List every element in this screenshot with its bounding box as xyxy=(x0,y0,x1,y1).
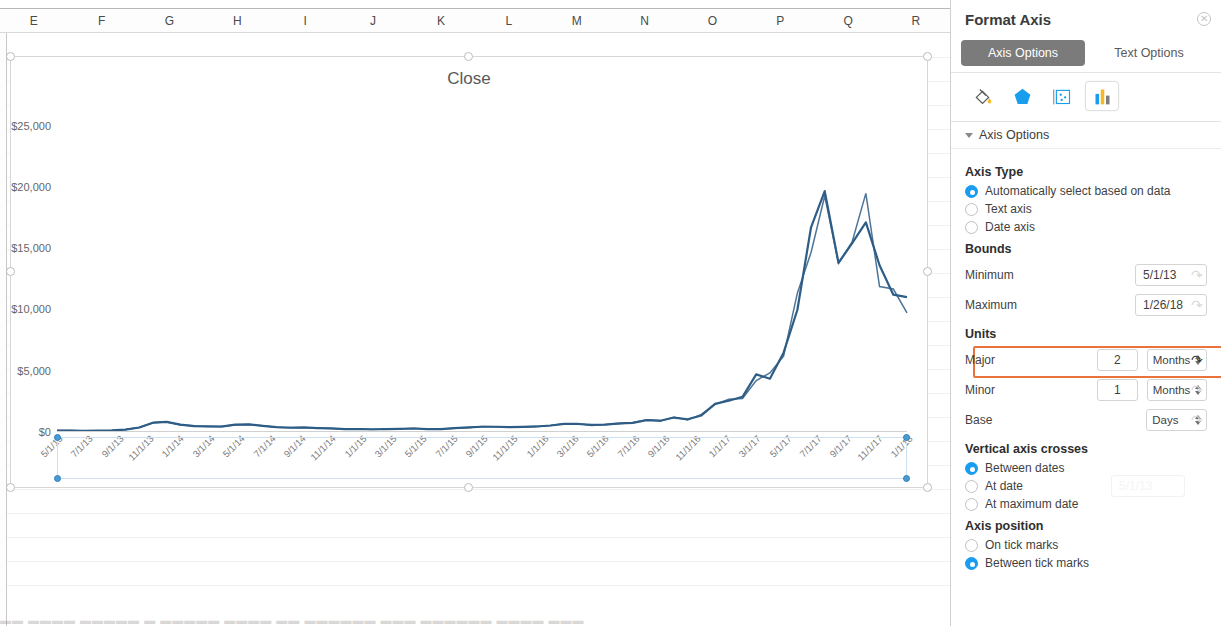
reset-major-icon[interactable]: ↷ xyxy=(1187,352,1207,368)
radio-button-icon xyxy=(965,498,978,511)
column-header-l[interactable]: L xyxy=(475,14,543,28)
category-axis-line xyxy=(57,431,907,432)
radio-label: Between tick marks xyxy=(985,556,1089,570)
axis-options-chart-icon[interactable] xyxy=(1085,81,1119,111)
column-header-n[interactable]: N xyxy=(611,14,679,28)
column-header-m[interactable]: M xyxy=(543,14,611,28)
radio-label: On tick marks xyxy=(985,538,1058,552)
axis-type-heading: Axis Type xyxy=(965,165,1207,179)
chart-handle-ml[interactable] xyxy=(6,267,15,276)
column-header-e[interactable]: E xyxy=(0,14,68,28)
column-header-row: EFGHIJKLMNOPQR xyxy=(0,8,950,33)
radio-between-tick-marks[interactable]: Between tick marks xyxy=(965,556,1207,570)
column-header-j[interactable]: J xyxy=(339,14,407,28)
radio-label: Automatically select based on data xyxy=(985,184,1170,198)
chart-handle-bc[interactable] xyxy=(464,483,473,492)
grid-line xyxy=(7,537,950,538)
radio-between-dates[interactable]: Between dates xyxy=(965,461,1207,475)
pane-title: Format Axis xyxy=(965,11,1051,28)
radio-auto-select[interactable]: Automatically select based on data xyxy=(965,184,1207,198)
radio-label: Date axis xyxy=(985,220,1035,234)
column-header-o[interactable]: O xyxy=(679,14,747,28)
tab-axis-options[interactable]: Axis Options xyxy=(961,40,1085,66)
axis-handle-br[interactable] xyxy=(903,475,910,482)
vertical-axis-crosses-heading: Vertical axis crosses xyxy=(965,442,1207,456)
major-label: Major xyxy=(965,353,1057,367)
chart-handle-bl[interactable] xyxy=(6,483,15,492)
chart-handle-tc[interactable] xyxy=(464,52,473,61)
units-base-row: Base Days ↷ xyxy=(965,406,1207,434)
units-heading: Units xyxy=(965,327,1207,341)
column-header-i[interactable]: I xyxy=(271,14,339,28)
chart-handle-tr[interactable] xyxy=(923,52,932,61)
column-header-g[interactable]: G xyxy=(136,14,204,28)
radio-at-date[interactable]: At date 5/1/13 xyxy=(965,479,1207,493)
reset-maximum-icon[interactable]: ↷ xyxy=(1187,297,1207,313)
y-axis-tick-label: $5,000 xyxy=(17,365,51,377)
chart-handle-tl[interactable] xyxy=(6,52,15,61)
column-header-p[interactable]: P xyxy=(746,14,814,28)
reset-minor-icon[interactable]: ↷ xyxy=(1187,382,1207,398)
y-axis-tick-label: $20,000 xyxy=(11,181,51,193)
y-axis-tick-label: $25,000 xyxy=(11,120,51,132)
bounds-minimum-row: Minimum 5/1/13 ↷ xyxy=(965,261,1207,289)
axis-handle-tl[interactable] xyxy=(54,434,61,441)
units-major-row: Major 2 Months ↷ xyxy=(965,346,1207,374)
radio-on-tick-marks[interactable]: On tick marks xyxy=(965,538,1207,552)
base-label: Base xyxy=(965,413,1057,427)
column-header-r[interactable]: R xyxy=(882,14,950,28)
minimum-label: Minimum xyxy=(965,268,1057,282)
fill-bucket-icon[interactable] xyxy=(965,81,999,111)
close-icon[interactable]: ✕ xyxy=(1197,12,1211,26)
radio-label: Between dates xyxy=(985,461,1064,475)
major-unit-value: Months xyxy=(1153,354,1191,366)
axis-handle-bl[interactable] xyxy=(54,475,61,482)
pane-body: Axis Type Automatically select based on … xyxy=(951,149,1221,570)
grid-line xyxy=(7,585,950,586)
size-properties-icon[interactable] xyxy=(1045,81,1079,111)
radio-button-icon xyxy=(965,462,978,475)
radio-date-axis[interactable]: Date axis xyxy=(965,220,1207,234)
major-value-input[interactable]: 2 xyxy=(1097,349,1138,371)
tab-text-options[interactable]: Text Options xyxy=(1087,40,1211,66)
column-header-h[interactable]: H xyxy=(204,14,272,28)
column-header-k[interactable]: K xyxy=(407,14,475,28)
at-date-input[interactable]: 5/1/13 xyxy=(1111,475,1185,497)
axis-position-heading: Axis position xyxy=(965,519,1207,533)
maximum-label: Maximum xyxy=(965,298,1057,312)
chevron-down-icon xyxy=(965,133,973,138)
radio-button-icon xyxy=(965,480,978,493)
chart-series-line xyxy=(57,101,907,432)
effects-pentagon-icon[interactable] xyxy=(1005,81,1039,111)
pane-header: Format Axis ✕ xyxy=(951,0,1221,38)
radio-button-icon xyxy=(965,221,978,234)
minor-value-input[interactable]: 1 xyxy=(1097,379,1138,401)
radio-label: At date xyxy=(985,479,1023,493)
chart-title: Close xyxy=(11,69,927,89)
x-axis-selection-box[interactable] xyxy=(57,437,907,479)
minor-label: Minor xyxy=(965,383,1057,397)
reset-minimum-icon[interactable]: ↷ xyxy=(1187,267,1207,283)
bounds-maximum-row: Maximum 1/26/18 ↷ xyxy=(965,291,1207,319)
grid-line xyxy=(7,513,950,514)
grid-line xyxy=(7,561,950,562)
radio-at-maximum-date[interactable]: At maximum date xyxy=(965,497,1207,511)
axis-options-section-toggle[interactable]: Axis Options xyxy=(951,122,1221,149)
chart-handle-br[interactable] xyxy=(923,483,932,492)
radio-button-icon xyxy=(965,557,978,570)
axis-handle-tr[interactable] xyxy=(903,434,910,441)
y-axis-tick-label: $0 xyxy=(39,426,51,438)
radio-label: At maximum date xyxy=(985,497,1078,511)
radio-text-axis[interactable]: Text axis xyxy=(965,202,1207,216)
grid-line xyxy=(7,489,950,490)
radio-button-icon xyxy=(965,185,978,198)
chart-handle-mr[interactable] xyxy=(923,267,932,276)
chart-object[interactable]: Close $0$5,000$10,000$15,000$20,000$25,0… xyxy=(10,56,928,488)
units-minor-row: Minor 1 Months ↷ xyxy=(965,376,1207,404)
bounds-heading: Bounds xyxy=(965,242,1207,256)
column-header-f[interactable]: F xyxy=(68,14,136,28)
reset-base-icon[interactable]: ↷ xyxy=(1187,412,1207,428)
format-axis-pane: Format Axis ✕ Axis Options Text Options xyxy=(950,0,1221,626)
minor-unit-value: Months xyxy=(1153,384,1191,396)
column-header-q[interactable]: Q xyxy=(814,14,882,28)
